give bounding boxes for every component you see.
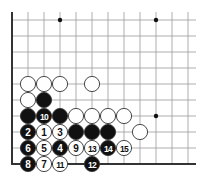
go-board: 102136549131415871112: [0, 0, 204, 189]
black-stone: [100, 124, 115, 139]
hoshi-point-icon: [154, 18, 158, 22]
white-stone: [52, 76, 67, 91]
black-stone: 4: [52, 140, 67, 155]
move-number-label: 7: [41, 159, 47, 170]
black-stone: [36, 92, 51, 107]
white-stone: [116, 108, 131, 123]
black-stone: 14: [100, 140, 115, 155]
white-stone: [84, 76, 99, 91]
black-stone: 8: [20, 156, 35, 171]
move-number-label: 15: [120, 144, 129, 154]
move-number-label: 3: [57, 127, 63, 138]
black-stone: 12: [84, 156, 99, 171]
hoshi-point-icon: [58, 18, 62, 22]
move-number-label: 10: [40, 112, 49, 122]
hoshi-point-icon: [154, 114, 158, 118]
black-stone: [84, 124, 99, 139]
white-stone: [84, 108, 99, 123]
white-stone: [20, 92, 35, 107]
white-stone: 15: [116, 140, 131, 155]
white-stone: [36, 76, 51, 91]
white-stone: 7: [36, 156, 51, 171]
white-stone: [68, 108, 83, 123]
black-stone: [68, 124, 83, 139]
white-stone: [20, 76, 35, 91]
stones-layer: 102136549131415871112: [20, 76, 147, 171]
black-stone: [52, 108, 67, 123]
move-number-label: 6: [25, 143, 31, 154]
white-stone: [100, 108, 115, 123]
move-number-label: 1: [41, 127, 47, 138]
move-number-label: 8: [25, 159, 31, 170]
black-stone: 2: [20, 124, 35, 139]
move-number-label: 5: [41, 143, 47, 154]
white-stone: 1: [36, 124, 51, 139]
move-number-label: 12: [88, 160, 97, 170]
white-stone: 13: [84, 140, 99, 155]
black-stone: [20, 108, 35, 123]
move-number-label: 9: [73, 143, 79, 154]
move-number-label: 13: [88, 144, 97, 154]
white-stone: 9: [68, 140, 83, 155]
white-stone: 5: [36, 140, 51, 155]
move-number-label: 4: [57, 143, 63, 154]
black-stone: 10: [36, 108, 51, 123]
move-number-label: 11: [56, 160, 64, 170]
black-stone: 6: [20, 140, 35, 155]
move-number-label: 14: [104, 144, 113, 154]
white-stone: 3: [52, 124, 67, 139]
white-stone: 11: [52, 156, 67, 171]
move-number-label: 2: [25, 127, 31, 138]
white-stone: [132, 124, 147, 139]
